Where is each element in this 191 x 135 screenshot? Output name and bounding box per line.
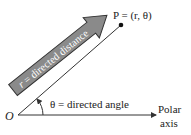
point-label: P = (r, θ) [113,10,152,21]
directed-distance-arrow: r = directed distance [5,5,115,100]
angle-label: θ = directed angle [50,99,129,110]
arrow-label: r = directed distance [16,27,90,89]
origin-label: O [5,110,14,122]
axis-label-axis: axis [160,118,178,129]
axis-label-polar: Polar [158,104,181,115]
angle-arc [37,99,43,115]
point-p [119,23,124,28]
